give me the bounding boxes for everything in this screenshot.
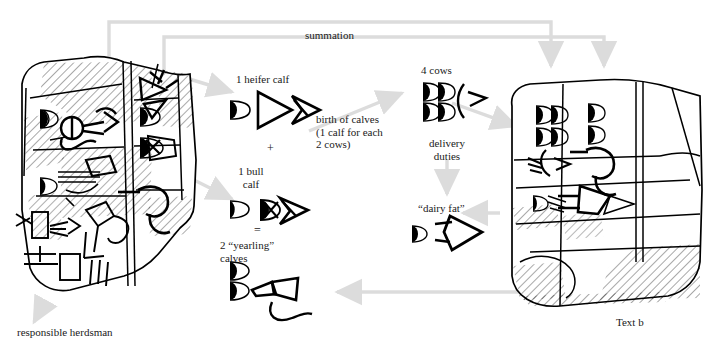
heifer-calf-signs: [230, 92, 320, 128]
label-four-cows: 4 cows: [421, 64, 452, 77]
bull-calf-signs: [230, 198, 308, 224]
figure-canvas: summation 1 heifer calf + 1 bull calf = …: [0, 0, 721, 349]
label-equals-sign: =: [254, 224, 261, 237]
label-responsible-herdsman: responsible herdsman: [17, 326, 113, 339]
dairy-fat-signs: [412, 216, 482, 250]
label-yearling-calves: 2 “yearling” calves: [220, 239, 274, 264]
four-cows-signs: [423, 83, 486, 121]
drawing-layer: [0, 0, 721, 349]
label-summation: summation: [305, 29, 354, 42]
label-delivery-duties: delivery duties: [412, 137, 482, 162]
label-text-b: Text b: [616, 316, 644, 329]
tablet-text-a: [16, 57, 196, 291]
label-plus-sign: +: [267, 142, 274, 155]
yearling-calves-signs: [230, 262, 312, 320]
label-heifer-calf: 1 heifer calf: [236, 73, 289, 86]
tablet-b-damage-1: [513, 262, 566, 300]
label-bull-calf: 1 bull calf: [228, 165, 274, 190]
tablet-text-b: [512, 79, 702, 306]
tablet-b-damage-2: [513, 204, 560, 230]
label-birth-of-calves: birth of calves (1 calf for each 2 cows): [316, 113, 383, 151]
tablet-b-damage-3: [562, 212, 604, 240]
label-dairy-fat: “dairy fat”: [418, 202, 465, 215]
